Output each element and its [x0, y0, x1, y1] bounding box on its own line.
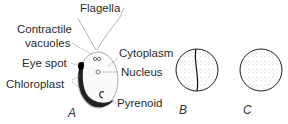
- label-cytoplasm: Cytoplasm: [119, 47, 173, 59]
- flagella-lines: [78, 8, 124, 50]
- label-chloroplast: Chloroplast: [6, 78, 64, 90]
- label-flagella: Flagella: [80, 2, 120, 14]
- label-pyrenoid: Pyrenoid: [117, 97, 162, 109]
- label-eye-spot: Eye spot: [22, 57, 67, 69]
- label-contractile: Contractile: [17, 23, 72, 35]
- cell-c: [240, 49, 282, 91]
- caption-a: A: [68, 106, 76, 120]
- caption-b: B: [179, 103, 187, 117]
- label-vacuoles: vacuoles: [25, 37, 70, 49]
- cell-b: [176, 49, 218, 91]
- caption-c: C: [243, 103, 252, 117]
- cell-a: [78, 52, 118, 108]
- label-nucleus: Nucleus: [121, 66, 163, 78]
